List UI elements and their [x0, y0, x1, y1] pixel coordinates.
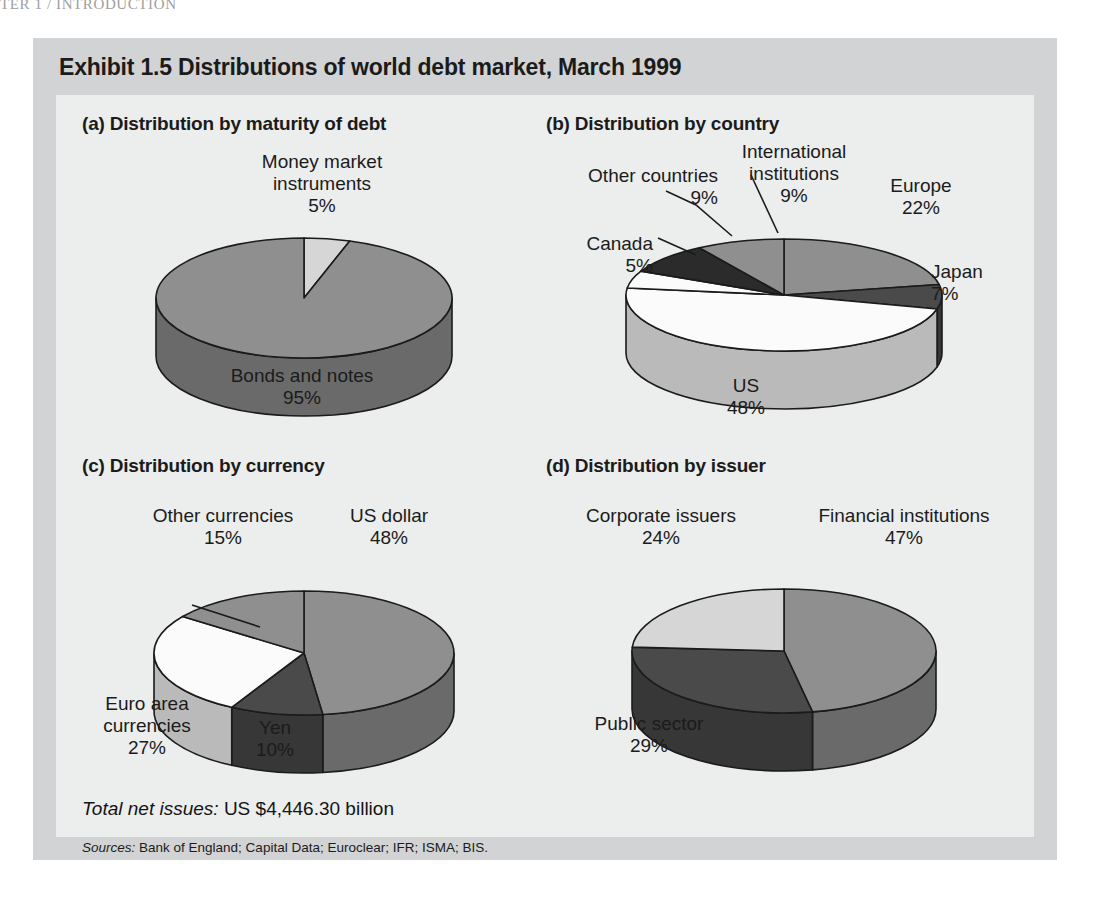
total-net-issues-label: Total net issues:	[82, 798, 219, 819]
label-us-dollar: US dollar48%	[314, 505, 464, 549]
label-japan: Japan7%	[931, 261, 1021, 305]
label-other-countries: Other countries9%	[528, 165, 718, 209]
sources-note: Sources: Bank of England; Capital Data; …	[82, 840, 488, 855]
exhibit-body: (a) Distribution by maturity of debt Mon…	[56, 95, 1034, 837]
sources-label: Sources:	[82, 840, 135, 855]
label-europe: Europe22%	[856, 175, 986, 219]
label-financial-institutions: Financial institutions47%	[794, 505, 1014, 549]
label-euro-area-currencies: Euro areacurrencies27%	[72, 693, 222, 759]
exhibit-title: Exhibit 1.5 Distributions of world debt …	[59, 54, 681, 81]
label-international-institutions: Internationalinstitutions9%	[714, 141, 874, 207]
chart-panel-d: (d) Distribution by issuer Financial ins…	[546, 455, 1016, 785]
label-canada: Canada5%	[538, 233, 653, 277]
running-header: TER 1 / INTRODUCTION	[0, 0, 420, 22]
label-yen: Yen10%	[220, 717, 330, 761]
sources-value: Bank of England; Capital Data; Euroclear…	[139, 840, 488, 855]
chart-panel-b: (b) Distribution by country Europe22% Ja…	[546, 113, 1016, 433]
total-net-issues-value: US $4,446.30 billion	[224, 798, 394, 819]
chart-panel-a: (a) Distribution by maturity of debt Mon…	[82, 113, 532, 433]
label-other-currencies: Other currencies15%	[128, 505, 318, 549]
exhibit-panel: Exhibit 1.5 Distributions of world debt …	[33, 38, 1057, 860]
total-net-issues: Total net issues: US $4,446.30 billion	[82, 798, 394, 820]
label-bonds-and-notes: Bonds and notes95%	[152, 365, 452, 409]
label-corporate-issuers: Corporate issuers24%	[556, 505, 766, 549]
chart-panel-c: (c) Distribution by currency US dollar48…	[82, 455, 532, 785]
label-us: US48%	[666, 375, 826, 419]
label-public-sector: Public sector29%	[554, 713, 744, 757]
label-money-market-instruments: Money marketinstruments5%	[202, 151, 442, 217]
